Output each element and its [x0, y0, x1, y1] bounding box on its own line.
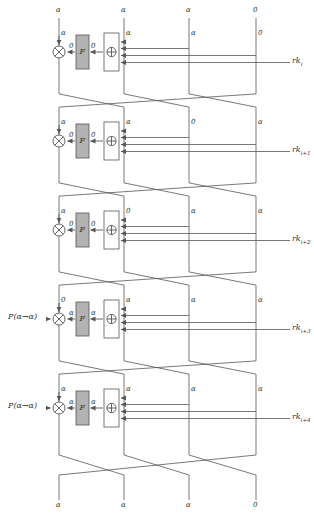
shuffle-wrap-wire-r0	[59, 84, 256, 117]
round-key-label-r1: rki+1	[292, 145, 311, 156]
f-function-label-r3: F	[80, 314, 86, 323]
label-before-f-r2: 0	[91, 220, 95, 228]
round-key-subscript-r0: i	[301, 60, 303, 66]
shuffle-wire-r2-b2	[189, 262, 256, 295]
round-module-1	[53, 117, 290, 173]
top-branch-label-1: α	[121, 6, 126, 14]
branch-label-r1-b1: α	[126, 118, 131, 126]
diagram-canvas: ααα0ααα0F00rkiαα0αF00rki+1α0ααF00rki+20α…	[0, 0, 314, 524]
branch-label-r1-b3: α	[258, 118, 263, 126]
f-function-label-r1: F	[80, 136, 86, 145]
round-key-subscript-r4: i+4	[301, 416, 311, 422]
feistel-network-svg	[0, 0, 314, 524]
label-before-f-r3: α	[91, 309, 96, 317]
label-after-f-r0: 0	[69, 42, 73, 50]
branch-label-r4-b0: α	[61, 385, 66, 393]
branch-label-r3-b1: α	[126, 296, 131, 304]
top-branch-label-3: 0	[253, 6, 257, 14]
branch-label-r0-b2: α	[191, 29, 196, 37]
round-modules-layer	[46, 28, 290, 440]
shuffle-wrap-wire-r1	[59, 173, 256, 206]
round-key-subscript-r1: i+1	[301, 149, 311, 155]
permutation-annotation-r4: P(α→α)	[8, 401, 37, 410]
round-key-subscript-r2: i+2	[301, 238, 311, 244]
branch-label-r0-b0: α	[61, 29, 66, 37]
label-before-f-r4: α	[91, 398, 96, 406]
f-function-label-r2: F	[80, 225, 86, 234]
shuffle-wrap-wire-r2	[59, 262, 256, 295]
round-key-name-r0: rk	[292, 56, 301, 65]
permutation-annotation-r3: P(α→α)	[8, 312, 37, 321]
round-module-0	[53, 28, 290, 84]
bottom-branch-label-0: α	[56, 501, 61, 509]
branch-label-r4-b3: α	[258, 385, 263, 393]
shuffle-wrap-wire-r3	[59, 351, 256, 384]
round-module-4	[46, 384, 290, 440]
top-branch-label-0: α	[56, 6, 61, 14]
shuffle-wire-r0-b2	[189, 84, 256, 117]
bottom-branch-label-2: α	[186, 501, 191, 509]
branch-label-r1-b2: 0	[191, 118, 195, 126]
branch-label-r3-b0: 0	[61, 296, 65, 304]
branch-label-r3-b2: α	[191, 296, 196, 304]
shuffle-wire-r1-b2	[189, 173, 256, 206]
f-function-label-r0: F	[80, 47, 86, 56]
top-branch-label-2: α	[186, 6, 191, 14]
branch-label-r2-b1: 0	[126, 207, 130, 215]
round-key-label-r2: rki+2	[292, 234, 311, 245]
branch-label-r0-b1: α	[126, 29, 131, 37]
round-key-name-r1: rk	[292, 145, 301, 154]
shuffle-wire-r4-b2	[189, 440, 256, 490]
shuffle-wire-r3-b2	[189, 351, 256, 384]
round-key-subscript-r3: i+3	[301, 327, 311, 333]
shuffle-wire-r0-b0	[59, 84, 124, 117]
round-key-name-r3: rk	[292, 323, 301, 332]
branch-label-r0-b3: 0	[258, 29, 262, 37]
label-after-f-r4: α	[69, 398, 74, 406]
round-module-3	[46, 295, 290, 351]
branch-label-r4-b1: α	[126, 385, 131, 393]
shuffle-wire-r4-b0	[59, 440, 124, 490]
label-before-f-r0: 0	[91, 42, 95, 50]
round-key-name-r2: rk	[292, 234, 301, 243]
branch-label-r2-b3: α	[258, 207, 263, 215]
label-before-f-r1: 0	[91, 131, 95, 139]
branch-label-r1-b0: α	[61, 118, 66, 126]
round-key-label-r3: rki+3	[292, 323, 311, 334]
shuffle-wrap-wire-r4	[59, 440, 256, 490]
round-key-label-r4: rki+4	[292, 412, 311, 423]
bottom-branch-label-1: α	[121, 501, 126, 509]
shuffle-wire-r3-b0	[59, 351, 124, 384]
branch-label-r3-b3: α	[258, 296, 263, 304]
label-after-f-r1: 0	[69, 131, 73, 139]
branch-label-r4-b2: α	[191, 385, 196, 393]
wire-layer	[59, 18, 256, 500]
shuffle-wire-r1-b0	[59, 173, 124, 206]
label-after-f-r2: 0	[69, 220, 73, 228]
label-after-f-r3: α	[69, 309, 74, 317]
branch-label-r2-b2: α	[191, 207, 196, 215]
branch-label-r2-b0: α	[61, 207, 66, 215]
round-key-label-r0: rki	[292, 56, 302, 67]
bottom-branch-label-3: 0	[253, 501, 257, 509]
round-key-name-r4: rk	[292, 412, 301, 421]
shuffle-wire-r2-b0	[59, 262, 124, 295]
f-function-label-r4: F	[80, 403, 86, 412]
round-module-2	[53, 206, 290, 262]
